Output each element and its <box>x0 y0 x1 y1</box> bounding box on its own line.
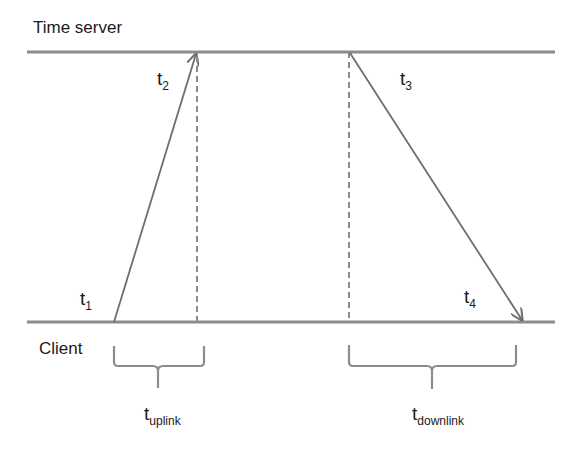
timestamp-t3: t3 <box>400 69 412 92</box>
server-label: Time server <box>33 19 122 36</box>
downlink-brace <box>349 345 516 389</box>
timestamp-t4: t4 <box>464 287 476 310</box>
timestamp-t1: t1 <box>80 289 92 312</box>
interval-uplink-label: tuplink <box>144 404 181 427</box>
interval-downlink-label: tdownlink <box>412 404 464 427</box>
sync-diagram-canvas <box>0 0 578 460</box>
uplink-brace <box>114 346 204 388</box>
client-label: Client <box>39 340 82 357</box>
timestamp-t2: t2 <box>157 69 169 92</box>
downlink-arrow <box>350 53 522 320</box>
uplink-arrow <box>114 54 196 322</box>
